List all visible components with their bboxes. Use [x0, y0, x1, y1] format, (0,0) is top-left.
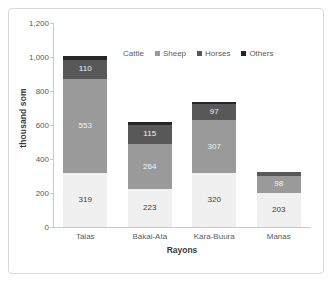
x-axis-category-label: Kara-Buura [177, 232, 251, 241]
legend-label: Sheep [163, 49, 186, 58]
bar-segment-sheep[interactable]: 307 [192, 120, 236, 172]
y-axis-tick-mark [50, 57, 53, 58]
bar-segment-horses[interactable]: 97 [192, 104, 236, 120]
x-axis-category-label: Manas [242, 232, 316, 241]
bar-segment-label: 320 [208, 196, 221, 204]
bar-segment-cattle[interactable]: 319 [63, 173, 107, 227]
legend-label: Cattle [123, 49, 144, 58]
y-axis-tick-label: 1,000 [19, 53, 49, 62]
bar-segment-sheep[interactable]: 98 [257, 176, 301, 193]
x-axis-title: Rayons [53, 245, 311, 255]
bar-segment-label: 97 [210, 108, 219, 116]
y-axis-tick-label: 1,200 [19, 19, 49, 28]
bar-stack[interactable]: 110553319 [63, 56, 107, 227]
legend-swatch-icon [155, 51, 160, 56]
y-axis-tick-label: 0 [19, 223, 49, 232]
y-axis-tick-label: 600 [19, 121, 49, 130]
y-axis-tick-mark [50, 91, 53, 92]
bar-segment-sheep[interactable]: 264 [128, 144, 172, 189]
legend-swatch-icon [197, 51, 202, 56]
legend-item-cattle[interactable]: Cattle [115, 49, 144, 58]
bar-segment-cattle[interactable]: 203 [257, 193, 301, 228]
y-axis-tick-labels: 1,2001,0008006004002000 [19, 23, 49, 228]
bar-segment-horses[interactable]: 115 [128, 125, 172, 145]
legend-item-sheep[interactable]: Sheep [155, 49, 186, 58]
legend-item-horses[interactable]: Horses [197, 49, 230, 58]
bar-segment-label: 319 [79, 196, 92, 204]
x-axis-line [53, 227, 311, 228]
bar-segment-sheep[interactable]: 553 [63, 79, 107, 173]
bar-stack[interactable]: 97307320 [192, 102, 236, 227]
bar-segment-cattle[interactable]: 320 [192, 173, 236, 227]
bar-segment-label: 98 [274, 180, 283, 188]
y-axis-line [53, 23, 54, 228]
y-axis-tick-label: 200 [19, 189, 49, 198]
bar-segment-cattle[interactable]: 223 [128, 189, 172, 227]
bar-stack[interactable]: 98203 [257, 172, 301, 227]
y-axis-tick-mark [50, 23, 53, 24]
x-axis-category-label: Bakai-Ata [113, 232, 187, 241]
legend-label: Horses [205, 49, 230, 58]
legend-item-others[interactable]: Others [241, 49, 273, 58]
y-axis-tick-mark [50, 125, 53, 126]
bar-segment-label: 264 [143, 163, 156, 171]
chart-legend: CattleSheepHorsesOthers [115, 49, 273, 58]
y-axis-tick-mark [50, 159, 53, 160]
bar-segment-label: 110 [79, 65, 92, 73]
bar-segment-label: 203 [272, 206, 285, 214]
y-axis-tick-mark [50, 193, 53, 194]
x-axis-category-label: Talas [48, 232, 122, 241]
y-axis-tick-mark [50, 227, 53, 228]
bar-segment-label: 115 [143, 130, 156, 138]
legend-swatch-icon [241, 51, 246, 56]
chart-frame: thousand som 1,2001,0008006004002000 231… [8, 8, 324, 274]
bar-stack[interactable]: 115264223 [128, 122, 172, 227]
legend-label: Others [249, 49, 273, 58]
bar-segment-label: 553 [79, 122, 92, 130]
bar-segment-label: 223 [143, 204, 156, 212]
y-axis-tick-label: 400 [19, 155, 49, 164]
bar-segment-label: 307 [208, 143, 221, 151]
y-axis-tick-label: 800 [19, 87, 49, 96]
bar-segment-horses[interactable]: 110 [63, 60, 107, 79]
